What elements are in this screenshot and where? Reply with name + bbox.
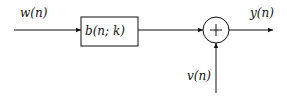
block-label: b(n; k) xyxy=(85,24,125,38)
block-diagram: w(n) b(n; k) v(n) y(n) xyxy=(0,0,287,97)
noise-label: v(n) xyxy=(187,69,211,83)
output-label: y(n) xyxy=(249,6,274,20)
input-label: w(n) xyxy=(20,6,48,20)
